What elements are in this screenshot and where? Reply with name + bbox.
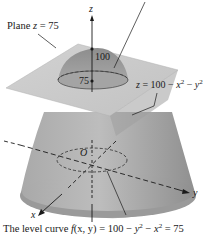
x-axis-label: x	[31, 210, 35, 220]
z-axis-label: z	[89, 4, 93, 14]
plane-label: Plane z = 75	[7, 21, 59, 32]
plane-label-leader	[38, 34, 56, 48]
y-axis-label: y	[193, 188, 197, 198]
level-curve-caption: The level curve f(x, y) = 100 − y2 − x2 …	[3, 224, 184, 235]
tick-100-dot	[90, 47, 93, 50]
tick-75-label: 75	[79, 76, 89, 86]
z-axis-arrow	[90, 15, 94, 21]
paraboloid-diagram	[0, 0, 222, 238]
tick-100-label: 100	[95, 52, 110, 62]
tick-75-dot	[90, 79, 93, 82]
surface-equation-label: z = 100 − x2 − y2	[136, 80, 203, 90]
origin-label: O	[80, 148, 87, 158]
